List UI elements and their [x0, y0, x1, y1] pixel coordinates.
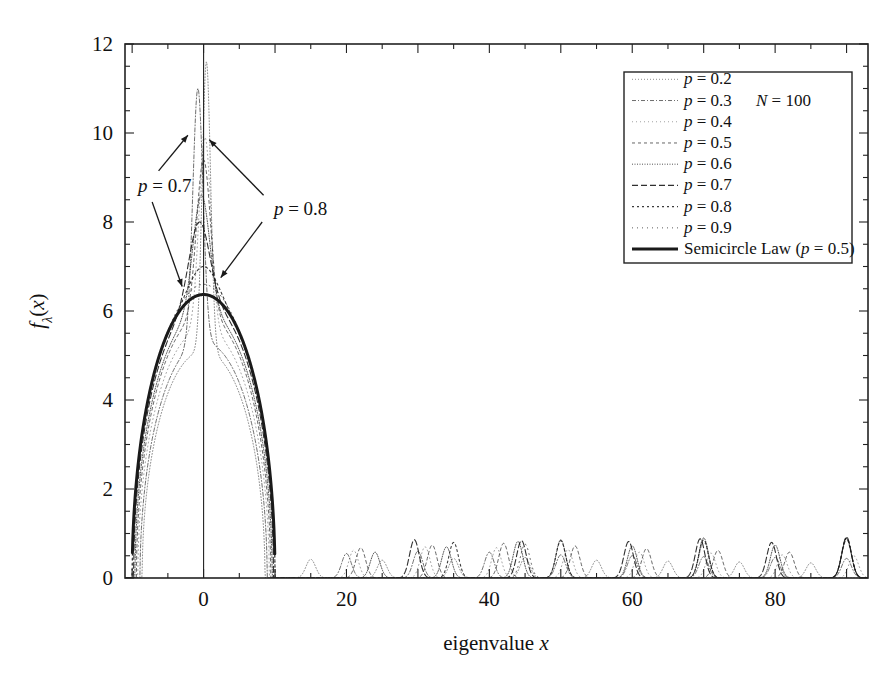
y-tick-label: 2	[103, 477, 114, 501]
legend-label-5[interactable]: p = 0.6	[683, 154, 732, 173]
legend-label-9[interactable]: Semicircle Law (p = 0.5)	[684, 239, 855, 258]
y-tick-label: 6	[103, 299, 114, 323]
y-tick-label: 10	[92, 121, 113, 145]
y-tick-label: 12	[92, 32, 113, 56]
figure-container: 020406080024681012 p = 0.7p = 0.8 p = 0.…	[0, 0, 893, 691]
chart-canvas: 020406080024681012 p = 0.7p = 0.8 p = 0.…	[0, 0, 893, 691]
x-axis-title: eigenvalue x	[443, 631, 549, 655]
legend-label-7[interactable]: p = 0.8	[683, 197, 732, 216]
x-tick-label: 80	[765, 587, 786, 611]
legend-label-8[interactable]: p = 0.9	[683, 218, 732, 237]
legend-box	[624, 72, 852, 263]
y-tick-label: 8	[103, 210, 114, 234]
legend-label-1[interactable]: p = 0.2	[683, 69, 732, 88]
y-tick-label: 0	[103, 566, 114, 590]
legend-label-2[interactable]: p = 0.3	[683, 91, 732, 110]
y-tick-label: 4	[103, 388, 114, 412]
x-tick-label: 40	[479, 587, 500, 611]
legend-label-6[interactable]: p = 0.7	[683, 175, 732, 194]
x-tick-label: 20	[336, 587, 357, 611]
annotation-p07: p = 0.7	[136, 175, 191, 196]
x-tick-label: 60	[622, 587, 643, 611]
legend[interactable]: p = 0.2p = 0.3p = 0.4p = 0.5p = 0.6p = 0…	[624, 69, 855, 263]
legend-label-3[interactable]: p = 0.4	[683, 112, 732, 131]
legend-note-N: N = 100	[755, 91, 811, 110]
legend-label-4[interactable]: p = 0.5	[683, 133, 732, 152]
x-tick-label: 0	[198, 587, 209, 611]
annotation-p08: p = 0.8	[272, 198, 327, 219]
